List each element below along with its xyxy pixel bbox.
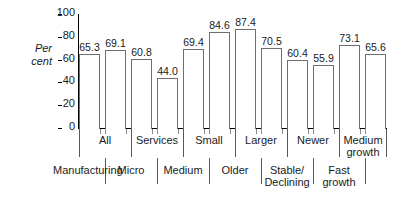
bar-value-older: 70.5 [252,36,291,47]
category-label-medium: Medium [157,164,209,176]
y-tick-mark-100 [58,14,62,15]
bar-slot-manufacturing[interactable]: 69.1 [105,14,126,129]
bar-value-fast-growth: 65.6 [356,42,395,53]
category-divider [365,158,366,184]
category-label-fast-growth: Fast growth [313,164,365,188]
bar-slot-medium-growth[interactable]: 73.1 [339,14,360,129]
category-label-micro: Micro [105,164,157,176]
bar-small[interactable] [183,49,204,129]
bar-slot-stable-declining[interactable]: 55.9 [313,14,334,129]
category-label-small: Small [183,134,235,146]
bar-value-services: 60.8 [122,47,161,58]
y-tick-mark-20 [58,105,62,106]
y-tick-label-0: 0 [69,121,75,132]
plot-area: 65.3 69.1 60.8 44.0 69.4 84.6 87.4 [79,14,386,129]
bar-slot-larger[interactable]: 87.4 [235,14,256,129]
category-label-medium-growth: Medium growth [339,134,387,158]
bar-stable-declining[interactable] [313,65,334,129]
category-label-stable-declining: Stable/ Declining [261,164,313,188]
bar-medium-growth[interactable] [339,45,360,129]
y-tick-label-100: 100 [57,7,75,18]
y-tick-label-60: 60 [63,53,75,64]
bar-slot-micro[interactable]: 44.0 [157,14,178,129]
bar-value-stable-declining: 55.9 [304,53,343,64]
y-tick-mark-80 [58,37,62,38]
bar-value-small: 69.4 [174,37,213,48]
bar-chart: Per cent 100 80 60 40 20 0 65.3 69.1 [0,0,407,202]
bar-slot-all[interactable]: 65.3 [79,14,100,129]
bar-newer[interactable] [287,60,308,129]
bar-slot-fast-growth[interactable]: 65.6 [365,14,386,129]
bar-fast-growth[interactable] [365,54,386,129]
bar-slot-medium[interactable]: 84.6 [209,14,230,129]
category-label-older: Older [209,164,261,176]
category-label-services: Services [131,134,183,146]
bar-slot-newer[interactable]: 60.4 [287,14,308,129]
y-tick-mark-40 [58,82,62,83]
category-label-manufacturing: Manufacturing [53,164,105,176]
category-label-larger: Larger [235,134,287,146]
category-label-newer: Newer [287,134,339,146]
bar-value-micro: 44.0 [148,66,187,77]
y-tick-label-40: 40 [63,75,75,86]
bar-slot-small[interactable]: 69.4 [183,14,204,129]
bar-medium[interactable] [209,32,230,129]
category-label-all: All [79,134,131,146]
y-tick-mark-0 [58,128,62,129]
bar-value-larger: 87.4 [226,17,265,28]
bar-older[interactable] [261,48,282,129]
y-axis-title: Per cent [6,42,52,68]
y-tick-mark-60 [58,60,62,61]
bar-micro[interactable] [157,78,178,129]
bar-manufacturing[interactable] [105,50,126,129]
y-tick-label-80: 80 [63,30,75,41]
bar-all[interactable] [79,54,100,129]
bar-slot-older[interactable]: 70.5 [261,14,282,129]
y-tick-label-20: 20 [63,98,75,109]
